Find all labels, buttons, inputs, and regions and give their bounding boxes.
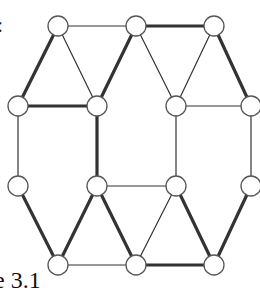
graph-nodes [8, 16, 260, 275]
edge-I-L-thick [58, 186, 97, 265]
graph-node-M [126, 255, 146, 275]
edge-J-N-thick [176, 186, 214, 265]
graph-node-C [204, 16, 224, 36]
graph-node-B [126, 16, 146, 36]
figure-caption: e 3.1 [0, 268, 41, 292]
graph-node-G [241, 96, 260, 116]
graph-edges [18, 26, 251, 265]
graph-node-J [166, 176, 186, 196]
edge-I-M-thick [97, 186, 136, 265]
cropped-text-fragment: : [0, 14, 3, 36]
graph-node-L [48, 255, 68, 275]
edge-C-G-thick [214, 26, 251, 106]
graph-node-E [87, 96, 107, 116]
edge-A-E-thin [58, 26, 97, 106]
edge-C-F-thin [176, 26, 214, 106]
graph-node-A [48, 16, 68, 36]
edge-H-L-thick [18, 186, 58, 265]
graph-node-I [87, 176, 107, 196]
edge-B-F-thin [136, 26, 176, 106]
graph-node-N [204, 255, 224, 275]
edge-B-E-thick [97, 26, 136, 106]
edge-J-M-thin [136, 186, 176, 265]
graph-node-K [241, 176, 260, 196]
graph-node-H [8, 176, 28, 196]
graph-node-F [166, 96, 186, 116]
edge-A-D-thick [18, 26, 58, 106]
edge-K-N-thick [214, 186, 251, 265]
graph-node-D [8, 96, 28, 116]
